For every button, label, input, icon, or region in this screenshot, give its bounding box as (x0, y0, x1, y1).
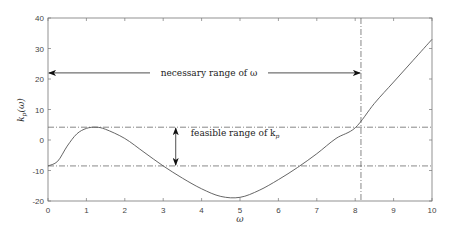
y-axis-label: kp(ω) (16, 98, 28, 122)
x-axis-label: ω (236, 214, 244, 224)
x-tick-label: 10 (428, 206, 437, 215)
y-tick-label: 0 (40, 136, 45, 145)
y-tick-label: 10 (35, 106, 44, 115)
x-tick-label: 9 (391, 206, 396, 215)
x-tick-label: 2 (123, 206, 128, 215)
x-tick-label: 3 (161, 206, 166, 215)
x-tick-label: 8 (353, 206, 358, 215)
x-tick-label: 6 (276, 206, 281, 215)
x-tick-label: 7 (315, 206, 320, 215)
plot-axes: 012345678910-20-10010203040 (32, 14, 437, 215)
y-tick-label: 30 (35, 45, 44, 54)
kp-range-label: feasible range of kp (191, 128, 280, 140)
plot-frame (48, 18, 432, 201)
omega-range-label: necessary range of ω (161, 68, 258, 78)
y-tick-label: 20 (35, 75, 44, 84)
kp-curve (48, 39, 432, 198)
x-tick-label: 0 (46, 206, 51, 215)
x-tick-label: 1 (84, 206, 89, 215)
reference-lines (48, 18, 432, 201)
y-tick-label: -10 (32, 167, 44, 176)
svg-text:kp(ω): kp(ω) (16, 98, 28, 122)
y-tick-label: -20 (32, 197, 44, 206)
y-tick-label: 40 (35, 14, 44, 23)
x-tick-label: 4 (199, 206, 204, 215)
annotations: necessary range of ωfeasible range of kp (49, 68, 360, 165)
chart: 012345678910-20-10010203040 necessary ra… (0, 0, 452, 237)
